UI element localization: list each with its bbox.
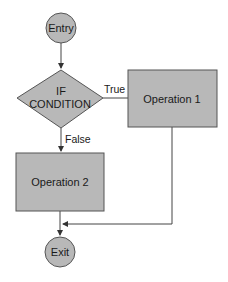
flowchart-canvas: Entry IF CONDITION True False Operation … <box>0 0 228 282</box>
operation2-label: Operation 2 <box>31 176 88 188</box>
true-label: True <box>104 83 125 95</box>
entry-node: Entry <box>46 13 76 43</box>
operation1-node: Operation 1 <box>128 70 217 127</box>
exit-node: Exit <box>45 237 75 267</box>
entry-label: Entry <box>48 22 74 34</box>
condition-label-line2: CONDITION <box>29 98 91 110</box>
exit-label: Exit <box>51 246 69 258</box>
false-label: False <box>65 133 91 145</box>
condition-node: IF CONDITION <box>17 70 103 128</box>
operation2-node: Operation 2 <box>16 153 104 211</box>
condition-label-line1: IF <box>56 85 66 97</box>
operation1-label: Operation 1 <box>143 93 200 105</box>
